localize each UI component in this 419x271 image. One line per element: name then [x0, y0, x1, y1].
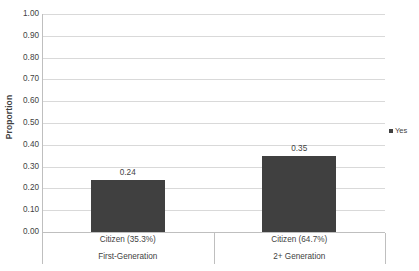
y-axis-tick-label: 0.70: [0, 75, 39, 83]
gridline: [42, 145, 385, 146]
gridline: [42, 58, 385, 59]
bar-value-label: 0.24: [98, 169, 158, 177]
category-label: Citizen (64.7%): [214, 236, 386, 244]
y-axis-tick-label: 0.30: [0, 162, 39, 170]
bar: [262, 156, 336, 232]
y-axis-tick-label: 0.50: [0, 119, 39, 127]
y-axis-tick-label: 0.10: [0, 206, 39, 214]
y-axis-tick-labels: 1.000.900.800.700.600.500.400.300.200.10…: [0, 0, 39, 271]
category-divider: [214, 233, 215, 264]
category-label: Citizen (35.3%): [42, 236, 214, 244]
y-axis-tick-label: 0.00: [0, 228, 39, 236]
category-divider: [42, 233, 43, 264]
bar-value-label: 0.35: [269, 145, 329, 153]
gridline: [42, 123, 385, 124]
y-axis-tick-label: 0.20: [0, 184, 39, 192]
gridline: [42, 79, 385, 80]
bar-chart: Proportion 1.000.900.800.700.600.500.400…: [0, 0, 419, 271]
group-label: First-Generation: [42, 253, 214, 261]
bar: [91, 180, 165, 232]
y-axis-line: [42, 14, 43, 233]
legend-swatch-yes: [389, 129, 393, 133]
chart-legend: Yes: [389, 127, 407, 135]
gridline: [42, 36, 385, 37]
gridline: [42, 101, 385, 102]
y-axis-tick-label: 0.60: [0, 97, 39, 105]
group-label: 2+ Generation: [214, 253, 386, 261]
y-axis-tick-label: 1.00: [0, 10, 39, 18]
gridline: [42, 14, 385, 15]
y-axis-tick-label: 0.40: [0, 141, 39, 149]
category-divider: [385, 233, 386, 264]
y-axis-tick-label: 0.80: [0, 53, 39, 61]
legend-label-yes: Yes: [395, 127, 407, 135]
y-axis-tick-label: 0.90: [0, 32, 39, 40]
